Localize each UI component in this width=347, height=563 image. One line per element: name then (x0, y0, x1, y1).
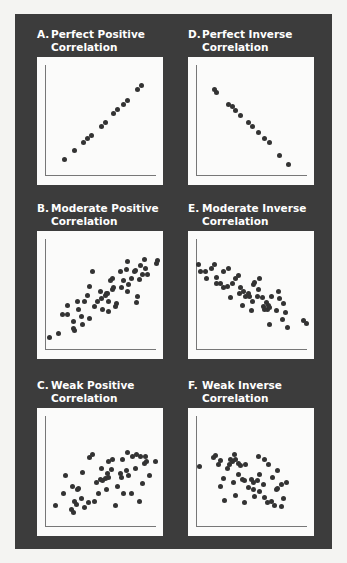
data-point (236, 273, 241, 278)
panel-title-a: A.Perfect Positive Correlation (37, 28, 145, 53)
y-axis (45, 239, 46, 350)
data-point (100, 307, 105, 312)
data-point (99, 466, 104, 471)
data-point (80, 322, 85, 327)
x-axis (196, 349, 307, 350)
data-point (143, 266, 148, 271)
data-point (283, 310, 288, 315)
data-point (76, 486, 81, 491)
data-point (214, 275, 219, 280)
panel-title-line1: Moderate Inverse (202, 202, 306, 214)
data-point (87, 316, 92, 321)
data-point (125, 98, 130, 103)
data-point (267, 140, 272, 145)
data-point (144, 459, 149, 464)
data-point (280, 317, 285, 322)
data-point (279, 482, 284, 487)
data-point (106, 475, 111, 480)
panel-letter: A. (37, 28, 51, 41)
data-point (124, 267, 129, 272)
data-point (260, 295, 265, 300)
panel-title-c: C.Weak Positive Correlation (37, 379, 134, 404)
data-point (270, 475, 275, 480)
data-point (221, 476, 226, 481)
data-point (221, 269, 226, 274)
data-point (257, 472, 262, 477)
panel-letter: B. (37, 202, 51, 215)
data-point (274, 308, 279, 313)
data-point (106, 309, 111, 314)
data-point (87, 284, 92, 289)
panel-title-line1: Moderate Positive (51, 202, 159, 214)
data-point (243, 462, 248, 467)
data-point (256, 130, 261, 135)
data-point (256, 287, 261, 292)
data-point (276, 289, 281, 294)
data-point (218, 484, 223, 489)
data-point (203, 269, 208, 274)
data-point (257, 489, 262, 494)
data-point (272, 503, 277, 508)
panel-title-d: D.Perfect Inverse Correlation (188, 28, 292, 53)
panel-title-line2: Correlation (37, 215, 159, 228)
data-point (90, 269, 95, 274)
data-point (256, 454, 261, 459)
data-point (135, 294, 140, 299)
data-point (89, 133, 94, 138)
data-point (75, 299, 80, 304)
panel-title-e: E.Moderate Inverse Correlation (188, 202, 306, 227)
data-point (242, 478, 247, 483)
y-axis (45, 65, 46, 176)
data-point (275, 486, 280, 491)
x-axis (196, 175, 307, 176)
data-point (238, 113, 243, 118)
data-point (120, 457, 125, 462)
data-point (62, 157, 67, 162)
data-point (137, 499, 142, 504)
data-point (266, 462, 271, 467)
data-point (92, 499, 97, 504)
data-point (139, 83, 144, 88)
data-point (71, 510, 76, 515)
data-point (109, 467, 114, 472)
data-point (56, 331, 61, 336)
panel-title-b: B.Moderate Positive Correlation (37, 202, 159, 227)
panel-title-line1: Perfect Inverse (202, 28, 292, 40)
data-point (137, 277, 142, 282)
data-point (129, 491, 134, 496)
x-axis (196, 526, 307, 527)
data-point (228, 295, 233, 300)
data-point (74, 502, 79, 507)
data-point (255, 478, 260, 483)
panel-title-line1: Weak Inverse (202, 379, 282, 391)
data-point (252, 280, 257, 285)
x-axis (45, 175, 156, 176)
data-point (218, 458, 223, 463)
data-point (233, 493, 238, 498)
data-point (121, 491, 126, 496)
data-point (110, 457, 115, 462)
data-point (119, 285, 124, 290)
data-point (111, 285, 116, 290)
data-point (233, 108, 238, 113)
data-point (92, 304, 97, 309)
data-point (47, 335, 52, 340)
data-point (236, 472, 241, 477)
scatter-plot-f (188, 408, 314, 536)
data-point (275, 468, 280, 473)
data-point (277, 153, 282, 158)
data-point (82, 505, 87, 510)
data-point (106, 299, 111, 304)
data-point (267, 322, 272, 327)
data-point (257, 276, 262, 281)
data-point (281, 496, 286, 501)
data-point (285, 325, 290, 330)
y-axis (196, 416, 197, 527)
data-point (79, 314, 84, 319)
data-point (71, 319, 76, 324)
data-point (281, 301, 286, 306)
data-point (232, 452, 237, 457)
panel-title-line2: Correlation (188, 41, 292, 54)
data-point (125, 289, 130, 294)
data-point (133, 466, 138, 471)
